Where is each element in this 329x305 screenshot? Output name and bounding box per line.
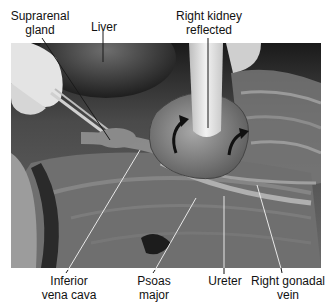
label-right-kidney-reflected: Right kidney reflected bbox=[172, 9, 246, 37]
label-line: Right gonadal bbox=[248, 274, 328, 288]
label-ureter: Ureter bbox=[204, 274, 246, 288]
label-line: Suprarenal bbox=[4, 9, 76, 23]
label-line: Right kidney bbox=[172, 9, 246, 23]
dissection-photo bbox=[11, 43, 321, 268]
label-line: major bbox=[134, 288, 174, 302]
label-right-gonadal-vein: Right gonadal vein bbox=[248, 274, 328, 302]
label-line: gland bbox=[4, 23, 76, 37]
label-line: Inferior bbox=[34, 274, 104, 288]
photo-illustration bbox=[11, 43, 321, 268]
label-line: vena cava bbox=[34, 288, 104, 302]
label-liver: Liver bbox=[87, 20, 121, 34]
label-line: reflected bbox=[172, 23, 246, 37]
label-line: vein bbox=[248, 288, 328, 302]
label-suprarenal-gland: Suprarenal gland bbox=[4, 9, 76, 37]
label-line: Psoas bbox=[134, 274, 174, 288]
label-psoas-major: Psoas major bbox=[134, 274, 174, 302]
label-inferior-vena-cava: Inferior vena cava bbox=[34, 274, 104, 302]
label-line: Liver bbox=[87, 20, 121, 34]
label-line: Ureter bbox=[204, 274, 246, 288]
